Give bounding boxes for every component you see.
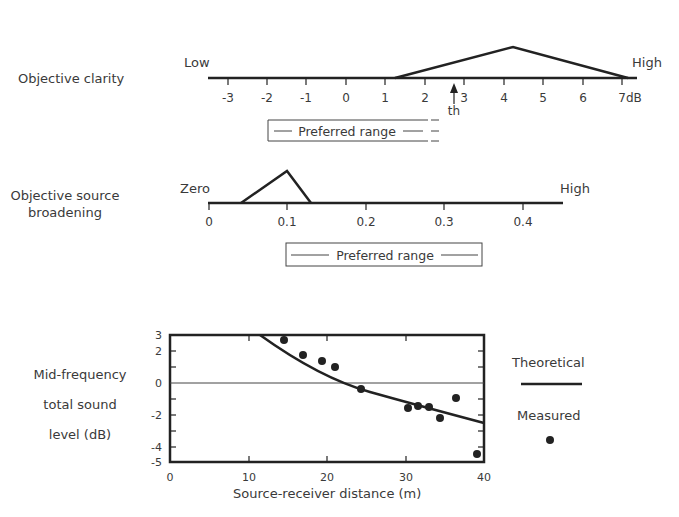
plot-frame [170, 335, 484, 462]
tick: 0 [205, 215, 213, 229]
ytick: -4 [151, 441, 162, 454]
tick: 0 [342, 91, 350, 105]
threshold-arrow-icon [450, 83, 458, 104]
tick: 7dB [618, 91, 641, 105]
tick: 4 [500, 91, 508, 105]
ytick: -5 [151, 456, 162, 469]
sound-level-plot: 3 2 0 -2 -4 -5 0 10 20 30 40 [151, 329, 582, 484]
tick: 0.2 [356, 215, 375, 229]
tick: 0.4 [513, 215, 532, 229]
broadening-triangle [241, 171, 311, 203]
clarity-triangle [395, 47, 628, 78]
xtick: 40 [477, 471, 491, 484]
tick: 3 [460, 91, 468, 105]
tick: 0.1 [277, 215, 296, 229]
xtick: 10 [242, 471, 256, 484]
xtick: 30 [399, 471, 413, 484]
tick: -3 [222, 91, 234, 105]
clarity-preferred-range-label: Preferred range [298, 124, 396, 139]
tick: 5 [539, 91, 547, 105]
tick: -1 [300, 91, 312, 105]
legend-dot-icon [546, 436, 554, 444]
tick: 1 [381, 91, 389, 105]
ytick: 0 [155, 377, 162, 390]
tick: -2 [261, 91, 273, 105]
threshold-label: th [448, 104, 460, 118]
diagram-canvas: -3 -2 -1 0 1 2 3 4 5 6 7dB th [0, 0, 679, 517]
clarity-scale: -3 -2 -1 0 1 2 3 4 5 6 7dB th [208, 47, 642, 141]
theoretical-curve [260, 335, 484, 423]
clarity-preferred-range: Preferred range [268, 120, 439, 141]
ytick: 3 [155, 329, 162, 342]
tick: 2 [421, 91, 429, 105]
broadening-preferred-range: Preferred range [286, 243, 482, 266]
clarity-ticks: -3 -2 -1 0 1 2 3 4 5 6 7dB [222, 91, 642, 105]
xtick: 0 [167, 471, 174, 484]
ytick: 2 [155, 345, 162, 358]
broadening-scale: 0 0.1 0.2 0.3 0.4 Preferred range [205, 171, 563, 266]
ytick: -2 [151, 409, 162, 422]
tick: 6 [579, 91, 587, 105]
xtick: 20 [320, 471, 334, 484]
measured-points [280, 336, 481, 458]
broadening-preferred-range-label: Preferred range [336, 248, 434, 263]
tick: 0.3 [434, 215, 453, 229]
